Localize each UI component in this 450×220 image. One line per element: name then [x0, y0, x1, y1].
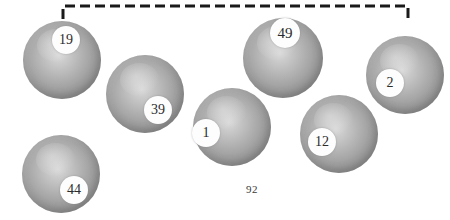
sphere-2-label-badge: 2 [376, 69, 404, 97]
sphere-44 [22, 135, 100, 213]
sphere-1-label-badge: 1 [192, 119, 220, 147]
page-number: 92 [246, 183, 258, 195]
dashed-bracket-path [63, 6, 408, 19]
sphere-12-label-badge: 12 [308, 128, 336, 156]
sphere-39-label-badge: 39 [144, 96, 172, 124]
sphere-49-label-badge: 49 [270, 18, 300, 48]
sphere-44-label-badge: 44 [60, 176, 88, 204]
figure-canvas: 193944149122 92 [0, 0, 450, 220]
sphere-39 [106, 55, 184, 133]
sphere-19-label-badge: 19 [52, 26, 80, 54]
